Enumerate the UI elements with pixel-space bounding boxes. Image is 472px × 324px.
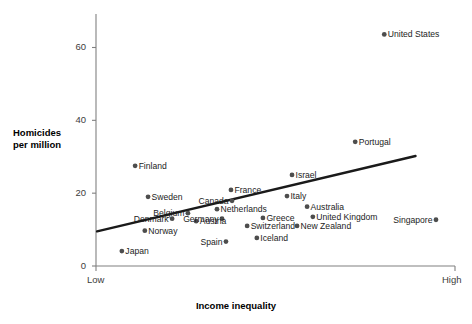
point-label: Switzerland: [251, 221, 295, 231]
point-label: Iceland: [260, 233, 288, 243]
y-axis-title: Homicidesper million: [13, 127, 61, 151]
point-label: Portugal: [359, 137, 391, 147]
point-label: Sweden: [152, 192, 183, 202]
x-axis-title: Income inequality: [0, 300, 472, 312]
point-label: Japan: [125, 246, 148, 256]
point-label: Israel: [296, 170, 317, 180]
point-label: Austria: [200, 216, 227, 226]
point-label: Denmark: [134, 214, 169, 224]
y-tick-label: 60: [56, 41, 86, 52]
y-tick-label: 40: [56, 114, 86, 125]
point-label: Netherlands: [220, 204, 266, 214]
y-tick-label: 20: [56, 187, 86, 198]
point-label: Norway: [148, 226, 177, 236]
x-tick-label-high: High: [442, 274, 462, 285]
scatter-chart: Homicidesper million Income inequality 0…: [0, 0, 472, 324]
point-label: New Zealand: [301, 221, 352, 231]
point-label: Finland: [139, 161, 167, 171]
y-tick-label: 0: [56, 260, 86, 271]
y-axis-title-line1: Homicides: [13, 127, 61, 138]
point-label: Australia: [311, 202, 344, 212]
y-axis-title-line2: per million: [13, 139, 61, 150]
point-label: France: [234, 185, 261, 195]
point-label: Italy: [290, 191, 306, 201]
x-tick-label-low: Low: [87, 274, 104, 285]
point-label: Spain: [200, 237, 222, 247]
point-label: Singapore: [393, 215, 432, 225]
point-label: United States: [388, 29, 440, 39]
